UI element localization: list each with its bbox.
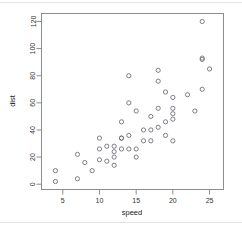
data-point xyxy=(119,136,123,140)
data-point xyxy=(141,128,145,132)
x-axis-ticks: 510152025 xyxy=(61,190,214,205)
y-tick-label: 60 xyxy=(30,99,37,107)
data-points-group xyxy=(53,19,211,183)
data-point xyxy=(141,139,145,143)
data-point xyxy=(112,155,116,159)
data-point xyxy=(171,95,175,99)
data-point xyxy=(185,93,189,97)
x-tick-label: 20 xyxy=(169,197,177,204)
x-tick-label: 15 xyxy=(132,197,140,204)
data-point xyxy=(134,147,138,151)
data-point xyxy=(149,128,153,132)
data-point xyxy=(75,177,79,181)
y-tick-label: 0 xyxy=(30,182,37,186)
y-tick-label: 20 xyxy=(30,153,37,161)
y-tick-label: 80 xyxy=(30,72,37,80)
y-axis-title: dist xyxy=(8,94,17,107)
data-point xyxy=(171,106,175,110)
data-point xyxy=(53,169,57,173)
data-point xyxy=(105,159,109,163)
x-tick-label: 10 xyxy=(96,197,104,204)
data-point xyxy=(127,101,131,105)
data-point xyxy=(200,87,204,91)
data-point xyxy=(171,112,175,116)
x-tick-label: 25 xyxy=(206,197,214,204)
data-point xyxy=(127,74,131,78)
data-point xyxy=(119,147,123,151)
plot-canvas: 020406080100120 510152025 speed dist xyxy=(0,0,242,231)
x-axis-title: speed xyxy=(122,208,142,217)
data-point xyxy=(97,136,101,140)
data-point xyxy=(83,160,87,164)
data-point xyxy=(112,150,116,154)
scatter-plot: 020406080100120 510152025 speed dist xyxy=(0,0,242,231)
data-point xyxy=(149,139,153,143)
data-point xyxy=(171,139,175,143)
data-point xyxy=(134,109,138,113)
data-point xyxy=(163,133,167,137)
y-axis-ticks: 020406080100120 xyxy=(30,16,42,187)
data-point xyxy=(97,147,101,151)
y-tick-label: 100 xyxy=(30,43,37,55)
data-point xyxy=(97,158,101,162)
data-point xyxy=(112,144,116,148)
data-point xyxy=(75,152,79,156)
data-point xyxy=(134,155,138,159)
x-tick-label: 5 xyxy=(61,197,65,204)
data-point xyxy=(105,144,109,148)
data-point xyxy=(200,19,204,23)
data-point xyxy=(119,120,123,124)
data-point xyxy=(53,179,57,183)
data-point xyxy=(127,147,131,151)
data-point xyxy=(156,125,160,129)
data-point xyxy=(207,67,211,71)
data-point xyxy=(163,120,167,124)
data-point xyxy=(171,117,175,121)
data-point xyxy=(163,90,167,94)
data-point xyxy=(156,68,160,72)
data-point xyxy=(156,106,160,110)
data-point xyxy=(193,109,197,113)
data-point xyxy=(90,169,94,173)
y-tick-label: 120 xyxy=(30,16,37,28)
data-point xyxy=(127,133,131,137)
data-point xyxy=(149,114,153,118)
plot-frame xyxy=(42,14,224,190)
data-point xyxy=(112,163,116,167)
y-tick-label: 40 xyxy=(30,126,37,134)
data-point xyxy=(156,79,160,83)
